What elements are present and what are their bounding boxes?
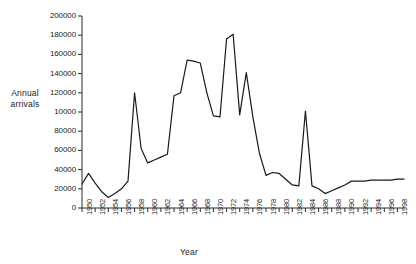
data-series bbox=[82, 34, 404, 197]
plot-area bbox=[0, 0, 416, 264]
line-chart: Annual arrivals 020000400006000080000100… bbox=[0, 0, 416, 264]
x-axis-title: Year bbox=[180, 247, 198, 257]
